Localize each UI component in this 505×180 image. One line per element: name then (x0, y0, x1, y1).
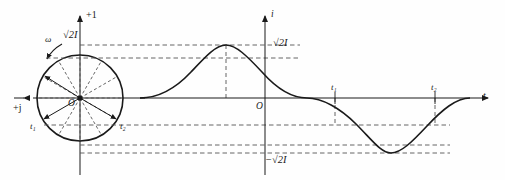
real-axis-label: +1 (86, 10, 97, 20)
omega-label: ω (45, 35, 51, 44)
waveform-tick-t1-label: t₁ (331, 83, 337, 92)
waveform-vertical-axis-label: i (271, 10, 274, 20)
phasor-origin-label: O (68, 99, 75, 109)
imag-axis-label: +j (13, 103, 21, 113)
phasor-arrow-t2 (80, 98, 116, 119)
waveform-time-axis-label: t (483, 92, 486, 102)
phasor-magnitude-label: √2I (63, 30, 78, 41)
phasor-arrow-upper-left (45, 76, 80, 98)
figure-canvas: +1 +j ω √2I O t₁ t₂ i t O √2I −√2I t₁ t₂ (0, 0, 505, 180)
waveform-axes (140, 16, 488, 175)
projection-lines (44, 45, 450, 153)
figure-vector-graphics (0, 0, 505, 180)
omega-rotation-arrow (47, 44, 62, 59)
waveform-peak-label: √2I (273, 38, 288, 49)
sine-waveform-curve (140, 45, 470, 153)
phasor-t1-label: t₁ (30, 122, 36, 131)
waveform-origin-label: O (256, 102, 263, 112)
phasor-t2-label: t₂ (120, 122, 126, 131)
phasor-origin-hub (77, 95, 82, 100)
waveform-trough-label: −√2I (265, 155, 287, 166)
waveform-tick-t2-label: t₂ (431, 83, 437, 92)
